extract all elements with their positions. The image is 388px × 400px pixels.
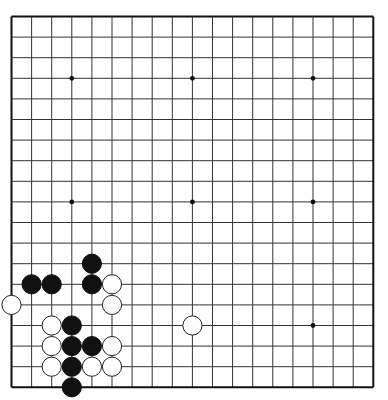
white-stone: [102, 275, 121, 294]
white-stone: [42, 337, 61, 356]
black-stone: [62, 337, 81, 356]
star-point: [69, 200, 74, 205]
black-stone: [22, 275, 41, 294]
white-stone: [2, 295, 21, 314]
star-point: [311, 76, 316, 81]
black-stone: [62, 378, 81, 397]
star-point: [311, 200, 316, 205]
white-stone: [82, 357, 101, 376]
white-stone: [42, 357, 61, 376]
go-board[interactable]: [0, 0, 388, 400]
black-stone: [82, 254, 101, 273]
white-stone: [102, 357, 121, 376]
star-point: [311, 323, 316, 328]
black-stone: [82, 275, 101, 294]
white-stone: [102, 295, 121, 314]
white-stone: [183, 316, 202, 335]
black-stone: [62, 357, 81, 376]
white-stone: [42, 316, 61, 335]
star-point: [190, 200, 195, 205]
star-point: [69, 76, 74, 81]
black-stone: [62, 316, 81, 335]
black-stone: [82, 337, 101, 356]
black-stone: [42, 275, 61, 294]
star-point: [190, 76, 195, 81]
white-stone: [102, 337, 121, 356]
